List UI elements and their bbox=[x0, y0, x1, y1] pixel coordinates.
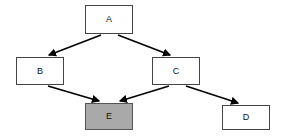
edge-c-to-e bbox=[120, 86, 169, 101]
edge-a-to-c bbox=[118, 35, 170, 55]
node-e-label: E bbox=[106, 112, 112, 121]
node-b[interactable]: B bbox=[16, 57, 64, 85]
diagram-canvas: A B C E D bbox=[0, 0, 283, 139]
node-a-label: A bbox=[106, 15, 112, 24]
edges-group bbox=[48, 35, 238, 103]
node-c[interactable]: C bbox=[152, 57, 200, 85]
node-b-label: B bbox=[37, 67, 43, 76]
node-c-label: C bbox=[173, 67, 180, 76]
edge-a-to-b bbox=[49, 35, 101, 55]
edge-c-to-d bbox=[186, 86, 238, 103]
node-a[interactable]: A bbox=[85, 5, 133, 34]
node-d-label: D bbox=[243, 113, 250, 122]
node-e[interactable]: E bbox=[85, 103, 133, 130]
edge-b-to-e bbox=[48, 86, 99, 101]
node-d[interactable]: D bbox=[222, 105, 270, 130]
